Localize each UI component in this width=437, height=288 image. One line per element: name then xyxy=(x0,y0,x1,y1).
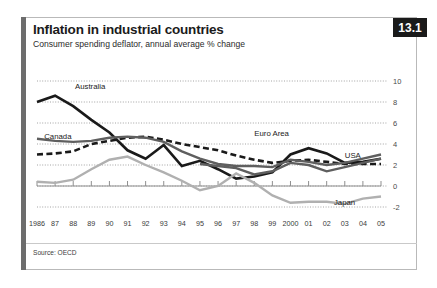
series-label-japan: Japan xyxy=(334,198,355,207)
y-axis-tick-label: 0 xyxy=(393,182,413,191)
y-axis-tick-label: -2 xyxy=(393,203,413,212)
x-axis-tick-label: 05 xyxy=(368,219,394,228)
series-label-euro-area: Euro Area xyxy=(254,129,289,138)
series-label-canada: Canada xyxy=(44,132,71,141)
y-axis-tick-label: 6 xyxy=(393,119,413,128)
source-note: Source: OECD xyxy=(33,249,77,256)
series-label-usa: USA xyxy=(345,151,361,160)
footer-divider xyxy=(26,243,417,244)
y-axis-tick-label: 4 xyxy=(393,140,413,149)
chart-page: 13.1 Inflation in industrial countries C… xyxy=(0,0,437,288)
series-label-australia: Australia xyxy=(75,82,105,91)
y-axis-tick-label: 8 xyxy=(393,98,413,107)
y-axis-tick-label: 2 xyxy=(393,161,413,170)
line-chart-plot xyxy=(0,0,437,288)
y-axis-tick-label: 10 xyxy=(393,77,413,86)
series-line-canada xyxy=(37,137,381,167)
